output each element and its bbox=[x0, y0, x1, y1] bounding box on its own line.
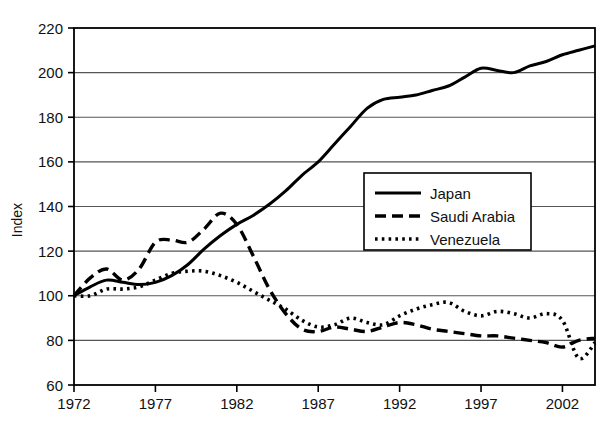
y-tick-label: 220 bbox=[38, 20, 63, 37]
x-tick-label: 1992 bbox=[383, 395, 416, 412]
x-tick-labels: 1972197719821987199219972002 bbox=[57, 395, 579, 412]
chart-legend: JapanSaudi ArabiaVenezuela bbox=[364, 173, 531, 250]
series-line-japan bbox=[74, 46, 595, 296]
y-tick-label: 100 bbox=[38, 287, 63, 304]
y-tick-label: 200 bbox=[38, 64, 63, 81]
y-tick-label: 140 bbox=[38, 198, 63, 215]
scan-artifact bbox=[10, 0, 604, 4]
chart-figure: 1972197719821987199219972002 60801001201… bbox=[0, 0, 614, 430]
y-tick-label: 160 bbox=[38, 153, 63, 170]
y-tick-label: 60 bbox=[46, 377, 63, 394]
x-tick-label: 1972 bbox=[57, 395, 90, 412]
y-tick-label: 120 bbox=[38, 243, 63, 260]
x-tick-label: 1977 bbox=[139, 395, 172, 412]
y-axis-title: Index bbox=[9, 203, 25, 237]
legend-label-japan: Japan bbox=[430, 185, 471, 202]
legend-label-venezuela: Venezuela bbox=[430, 231, 501, 248]
x-tick-label: 2002 bbox=[546, 395, 579, 412]
y-tick-labels: 6080100120140160180200220 bbox=[38, 20, 63, 394]
x-tick-label: 1987 bbox=[302, 395, 335, 412]
x-tick-label: 1982 bbox=[220, 395, 253, 412]
y-axis-title-text: Index bbox=[9, 203, 25, 237]
line-chart: 1972197719821987199219972002 60801001201… bbox=[0, 0, 614, 430]
y-tick-label: 80 bbox=[46, 332, 63, 349]
x-tick-label: 1997 bbox=[464, 395, 497, 412]
legend-label-saudi-arabia: Saudi Arabia bbox=[430, 208, 516, 225]
y-tick-label: 180 bbox=[38, 109, 63, 126]
